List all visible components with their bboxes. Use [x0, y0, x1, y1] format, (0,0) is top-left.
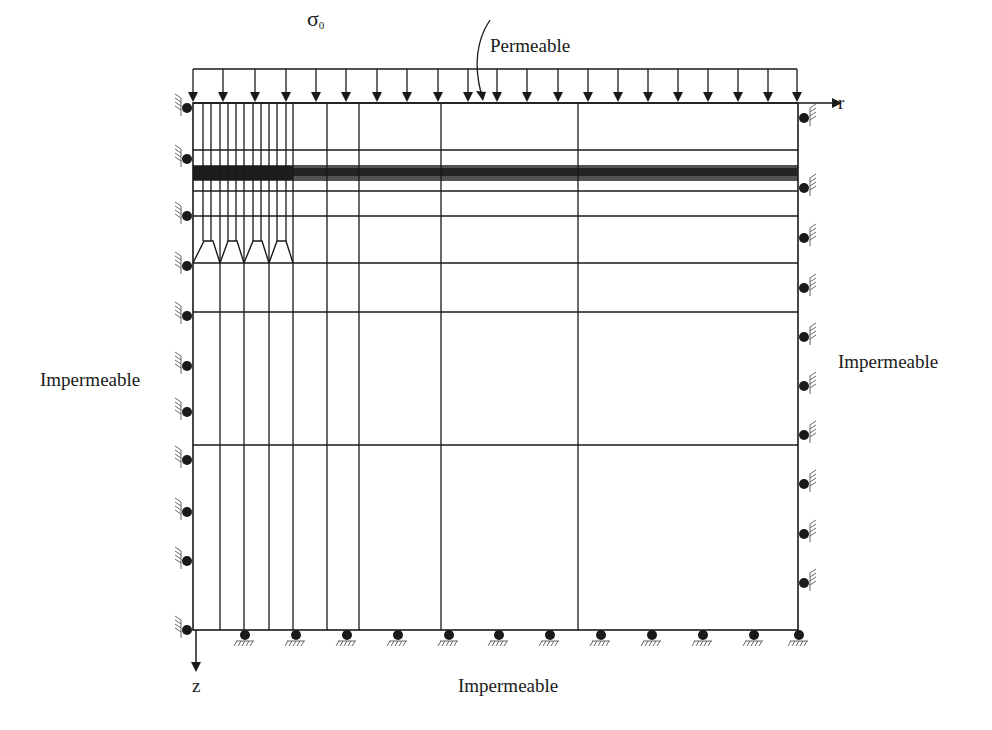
fixity-hatch: [488, 641, 491, 646]
fixity-hatch: [175, 157, 181, 161]
roller-support-icon: [342, 630, 352, 640]
load-arrow-head-icon: [522, 92, 532, 102]
fixity-hatch: [810, 186, 816, 190]
roller-support-icon: [698, 630, 708, 640]
fixity-hatch: [175, 454, 181, 458]
fixity-hatch: [788, 641, 791, 646]
fixity-hatch: [175, 559, 181, 563]
load-arrow-head-icon: [372, 92, 382, 102]
fixity-hatch: [810, 384, 816, 388]
load-arrow-head-icon: [733, 92, 743, 102]
impermeable-left-label: Impermeable: [40, 370, 140, 389]
fixity-hatch: [810, 286, 816, 290]
roller-support-icon: [799, 381, 809, 391]
fixity-hatch: [800, 641, 803, 646]
z-axis-label: z: [192, 676, 200, 695]
fixity-hatch: [175, 310, 181, 314]
roller-support-icon: [182, 154, 192, 164]
fixity-hatch: [704, 641, 707, 646]
roller-support-icon: [799, 283, 809, 293]
roller-support-icon: [799, 479, 809, 489]
fixity-hatch: [175, 94, 181, 98]
permeable-top-label: Permeable: [490, 36, 570, 55]
fixity-hatch: [175, 302, 181, 306]
fixity-hatch: [755, 641, 758, 646]
fixity-hatch: [175, 450, 181, 454]
load-arrow-head-icon: [311, 92, 321, 102]
fixity-hatch: [175, 206, 181, 210]
load-arrow-head-icon: [763, 92, 773, 102]
fixity-hatch: [285, 641, 288, 646]
fixity-hatch: [175, 624, 181, 628]
fixity-hatch: [543, 641, 546, 646]
fixity-hatch: [810, 104, 816, 108]
roller-support-icon: [799, 430, 809, 440]
roller-support-icon: [182, 211, 192, 221]
domain-boundary: [193, 103, 798, 630]
fixity-hatch: [238, 641, 241, 646]
load-arrow-head-icon: [188, 92, 198, 102]
transition-wedge: [244, 241, 269, 263]
fixity-hatch: [810, 112, 816, 116]
fixity-hatch: [696, 641, 699, 646]
fixity-hatch: [602, 641, 605, 646]
impermeable-bottom-label: Impermeable: [458, 676, 558, 695]
fixity-hatch: [810, 278, 816, 282]
fixity-hatch: [175, 98, 181, 102]
fixity-hatch: [175, 502, 181, 506]
fixity-hatch: [175, 458, 181, 462]
fixity-hatch: [641, 641, 644, 646]
fixity-hatch: [175, 364, 181, 368]
fixity-hatch: [810, 174, 816, 178]
fixity-hatch: [175, 256, 181, 260]
fixity-hatch: [810, 528, 816, 532]
bottom-roller-supports: [234, 630, 808, 646]
load-arrow-head-icon: [703, 92, 713, 102]
fixity-hatch: [344, 641, 347, 646]
coordinate-axes: [191, 98, 842, 672]
fixity-hatch: [590, 641, 593, 646]
fixity-hatch: [175, 149, 181, 153]
surcharge-load-sigma0: [188, 69, 802, 102]
fixity-hatch: [700, 641, 703, 646]
fixity-hatch: [810, 532, 816, 536]
fixity-hatch: [175, 616, 181, 620]
fixity-hatch: [175, 356, 181, 360]
fixity-hatch: [175, 402, 181, 406]
load-arrow-head-icon: [492, 92, 502, 102]
fixity-hatch: [175, 628, 181, 632]
load-arrow-head-icon: [402, 92, 412, 102]
fixity-hatch: [606, 641, 609, 646]
fixity-hatch: [293, 641, 296, 646]
fixity-hatch: [175, 145, 181, 149]
roller-support-icon: [494, 630, 504, 640]
fixity-hatch: [175, 264, 181, 268]
fixity-hatch: [810, 282, 816, 286]
fixity-hatch: [810, 182, 816, 186]
fixity-hatch: [175, 398, 181, 402]
load-arrow-head-icon: [250, 92, 260, 102]
fixity-hatch: [301, 641, 304, 646]
drain-transition-elements: [193, 241, 293, 263]
load-arrow-head-icon: [218, 92, 228, 102]
right-roller-supports: [799, 104, 816, 591]
load-arrow-head-icon: [463, 92, 473, 102]
fixity-hatch: [810, 224, 816, 228]
roller-support-icon: [799, 529, 809, 539]
fixity-hatch: [175, 406, 181, 410]
fixity-hatch: [810, 236, 816, 240]
fixity-hatch: [810, 372, 816, 376]
fixity-hatch: [810, 376, 816, 380]
fixity-hatch: [289, 641, 292, 646]
permeable-pointer-arrow: [476, 20, 490, 101]
fixity-hatch: [810, 433, 816, 437]
fixity-hatch: [175, 102, 181, 106]
roller-support-icon: [799, 183, 809, 193]
fixity-hatch: [747, 641, 750, 646]
fixity-hatch: [175, 106, 181, 110]
fixity-hatch: [175, 410, 181, 414]
fixity-hatch: [450, 641, 453, 646]
roller-support-icon: [240, 630, 250, 640]
fixity-hatch: [403, 641, 406, 646]
fixity-hatch: [810, 524, 816, 528]
